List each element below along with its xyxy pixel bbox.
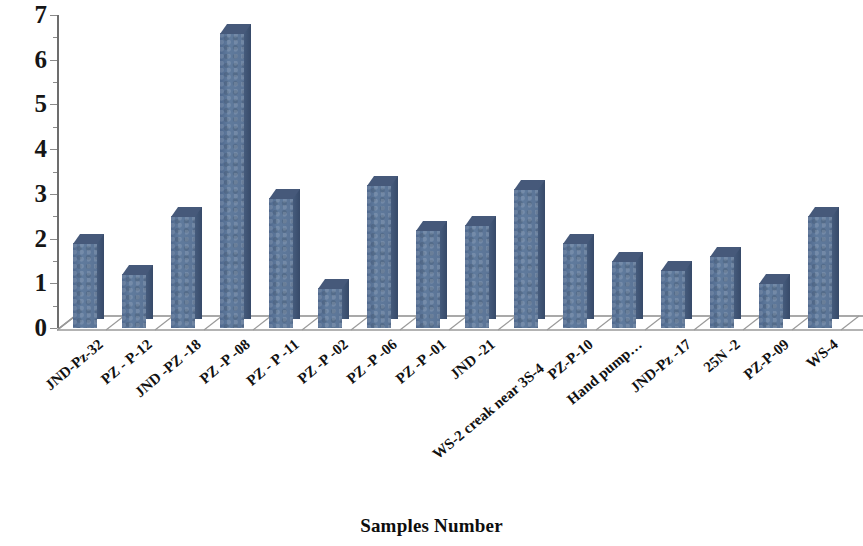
bar-front-face [73,243,97,328]
bar-top-face [416,221,447,230]
bar [759,274,783,328]
y-axis-tick-label: 7 [13,2,47,27]
bar-front-face [612,261,636,328]
bar-front-face [710,256,734,328]
y-axis-tick-label: 5 [13,91,47,116]
y-axis-tick [50,149,57,150]
bar [73,234,97,328]
y-axis-tick [50,283,57,284]
bar-front-face [122,274,146,328]
bar [220,24,244,328]
bar-side-face [244,24,251,319]
bar-front-face [269,198,293,328]
y-axis-tick-label: 6 [13,47,47,72]
bar-side-face [293,189,300,319]
bar-top-face [661,261,692,270]
y-axis-tick [50,104,57,105]
bar-side-face [832,207,839,319]
bar-top-face [318,279,349,288]
bar-top-face [220,24,251,33]
bar-top-face [514,180,545,189]
bar-front-face [171,216,195,328]
bar-front-face [661,270,685,328]
bar-front-face [808,216,832,328]
bar-top-face [465,216,496,225]
bar [367,176,391,328]
y-axis-tick-label: 3 [13,181,47,206]
bar-front-face [563,243,587,328]
bar-front-face [367,185,391,328]
bar-top-face [612,252,643,261]
y-axis-tick-label: 2 [13,226,47,251]
bar-side-face [538,180,545,319]
bar-top-face [122,265,153,274]
bar-top-face [563,234,594,243]
bar-front-face [759,283,783,328]
bar [171,207,195,328]
bar-top-face [367,176,398,185]
bar-front-face [416,230,440,328]
bar [465,216,489,328]
bar-side-face [440,221,447,319]
bar-side-face [636,252,643,319]
y-axis-tick-label: 0 [13,315,47,340]
bar-side-face [195,207,202,319]
bar-side-face [391,176,398,319]
bar-top-face [171,207,202,216]
y-axis-tick [50,194,57,195]
bar-top-face [759,274,790,283]
bar-top-face [808,207,839,216]
bars-layer [57,15,863,328]
y-axis-tick-label: 4 [13,136,47,161]
bar-front-face [220,33,244,328]
bar [269,189,293,328]
x-axis-title: Samples Number [0,515,863,537]
bar-chart: 01234567 [0,0,863,546]
y-axis-tick [50,60,57,61]
bar-side-face [587,234,594,319]
bar [122,265,146,328]
bar [661,261,685,328]
y-axis-tick [50,328,57,329]
bar-side-face [734,247,741,319]
bar-top-face [73,234,104,243]
bar [563,234,587,328]
y-axis-tick [50,239,57,240]
bar [318,279,342,328]
bar-front-face [318,288,342,328]
bar-front-face [465,225,489,328]
bar [612,252,636,328]
bar [710,247,734,328]
bar-side-face [489,216,496,319]
bar-side-face [97,234,104,319]
y-axis-tick [50,15,57,16]
category-labels: JND-Pz-32PZ - P-12JND -PZ -18PZ -P -08PZ… [57,331,863,506]
bar-top-face [710,247,741,256]
bar-top-face [269,189,300,198]
bar [416,221,440,328]
bar [514,180,538,328]
bar-front-face [514,189,538,328]
y-axis-tick-label: 1 [13,270,47,295]
bar [808,207,832,328]
